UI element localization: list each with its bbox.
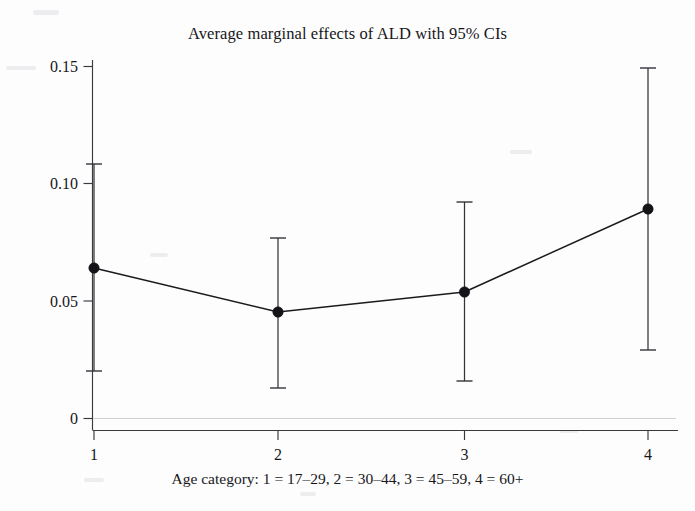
data-point-category-1 xyxy=(89,263,99,273)
chart-figure: Average marginal effects of ALD with 95%… xyxy=(0,0,695,511)
x-tick-label-4: 4 xyxy=(644,446,652,463)
marginal-effects-line xyxy=(94,209,648,312)
x-axis-caption: Age category: 1 = 17–29, 2 = 30–44, 3 = … xyxy=(0,470,695,488)
data-point-category-4 xyxy=(643,204,653,214)
x-tick-label-2: 2 xyxy=(274,446,282,463)
y-tick-label-0: 0 xyxy=(70,410,78,427)
y-tick-label-015: 0.15 xyxy=(50,58,78,75)
plot-area: 0.15 0.10 0.05 0 1 2 3 4 xyxy=(0,0,695,511)
data-point-category-3 xyxy=(459,287,469,297)
x-tick-label-3: 3 xyxy=(461,446,469,463)
y-tick-label-005: 0.05 xyxy=(50,293,78,310)
data-point-category-2 xyxy=(273,307,283,317)
y-tick-marks xyxy=(84,67,93,419)
x-tick-label-1: 1 xyxy=(90,446,98,463)
scan-artifacts xyxy=(6,10,578,496)
y-tick-label-010: 0.10 xyxy=(50,175,78,192)
